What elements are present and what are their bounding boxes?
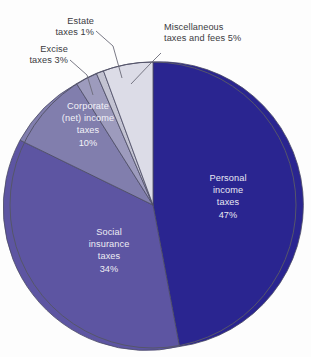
callout-label-estate-taxes: Estate taxes 1% xyxy=(14,16,94,38)
callout-label-miscellaneous-taxes-and-fees: Miscellaneous taxes and fees 5% xyxy=(164,22,304,44)
pie-slices xyxy=(3,62,303,351)
callout-label-excise-taxes: Excise taxes 3% xyxy=(6,44,68,66)
pie-slice-personal-income-taxes[interactable] xyxy=(153,62,303,347)
pie-chart: Estate taxes 1% Excise taxes 3% Miscella… xyxy=(0,0,311,357)
